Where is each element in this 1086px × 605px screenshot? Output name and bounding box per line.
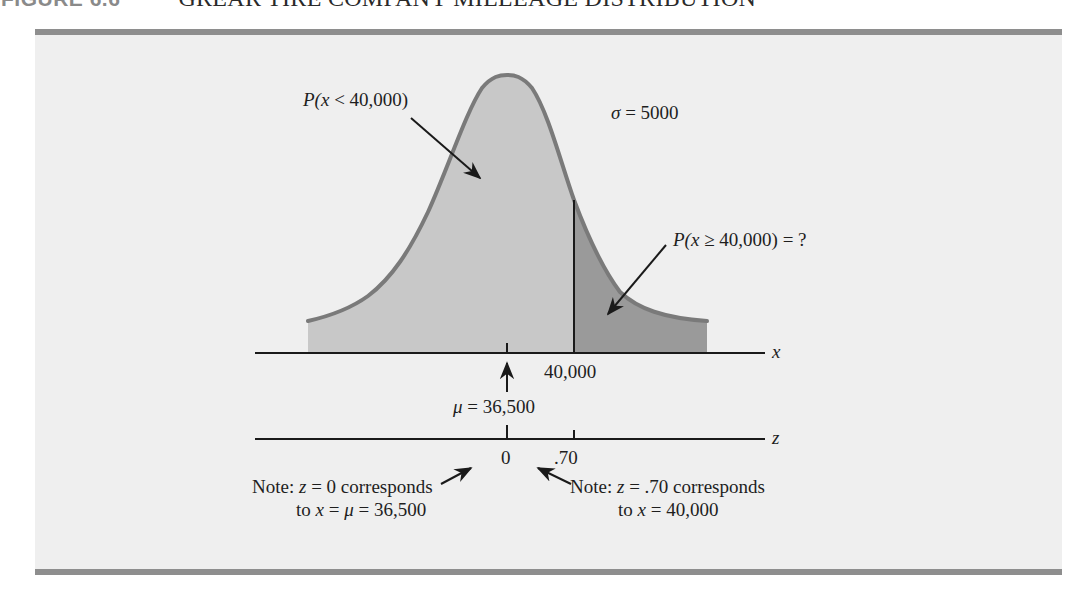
note-left-prefix: Note: [252, 476, 299, 497]
note-left-line2-x: x [316, 499, 324, 520]
note-left-rest: = 0 corresponds [306, 476, 432, 497]
mu-value: = 36,500 [463, 396, 535, 417]
note-right-prefix: Note: [570, 476, 617, 497]
p-less-rest: < 40,000) [329, 89, 408, 110]
note-right-line1: Note: z = .70 corresponds [570, 476, 765, 498]
sigma-value: = 5000 [620, 102, 678, 123]
p-greater-rest: ≥ 40,000) = ? [699, 229, 806, 250]
mu-symbol: μ [453, 396, 463, 417]
normal-curve-diagram [0, 0, 1086, 605]
note-left-line2-prefix: to [296, 499, 316, 520]
note-right-rest: = .70 corresponds [624, 476, 765, 497]
note-left-line1: Note: z = 0 corresponds [252, 476, 433, 498]
p-greater-label: P(x ≥ 40,000) = ? [673, 229, 807, 251]
p-less-label: P(x < 40,000) [303, 89, 408, 111]
z-tick-0-label: 0 [501, 447, 511, 469]
p-greater-prefix: P( [673, 229, 691, 250]
z-tick-70-label: .70 [554, 447, 578, 469]
p-less-prefix: P( [303, 89, 321, 110]
note-left-line2-mu: μ [344, 499, 354, 520]
left-area-shading [308, 75, 574, 353]
note-left-line2: to x = μ = 36,500 [296, 499, 426, 521]
mu-label: μ = 36,500 [453, 396, 535, 418]
note-right-arrow [538, 468, 571, 484]
note-right-line2: to x = 40,000 [618, 499, 718, 521]
note-right-line2-prefix: to [618, 499, 638, 520]
sigma-label: σ = 5000 [611, 102, 679, 124]
note-left-line2-rest: = 36,500 [354, 499, 426, 520]
note-left-arrow [441, 468, 471, 484]
x-axis-label: x [772, 341, 780, 363]
x-value-label: 40,000 [544, 361, 596, 383]
z-axis-label: z [772, 427, 779, 449]
note-left-line2-eq: = [324, 499, 344, 520]
sigma-symbol: σ [611, 102, 620, 123]
note-right-line2-x: x [638, 499, 646, 520]
note-right-line2-rest: = 40,000 [646, 499, 718, 520]
